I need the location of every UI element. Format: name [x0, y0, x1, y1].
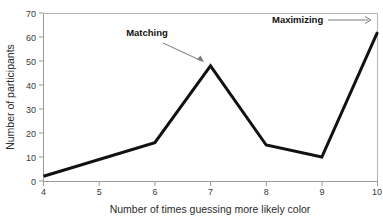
annotation-maximizing: Maximizing [272, 14, 371, 25]
y-axis-title: Number of participants [4, 44, 16, 150]
line-chart: 0 10 20 30 40 50 60 70 4 5 6 7 8 9 [0, 0, 383, 218]
x-tick-label: 10 [372, 187, 382, 197]
arrow-head-icon [197, 56, 204, 63]
x-tick-label: 5 [97, 187, 102, 197]
plot-frame [44, 13, 379, 182]
y-tick-label: 0 [31, 177, 36, 187]
y-tick-label: 70 [26, 9, 36, 19]
x-tick-label: 7 [208, 187, 213, 197]
y-axis-ticks [39, 13, 44, 181]
x-tick-label: 9 [319, 187, 324, 197]
y-tick-label: 50 [26, 57, 36, 67]
y-tick-label: 40 [26, 81, 36, 91]
x-tick-label: 6 [152, 187, 157, 197]
annotation-maximizing-label: Maximizing [272, 14, 323, 25]
x-tick-label: 4 [41, 187, 46, 197]
x-tick-label: 8 [264, 187, 269, 197]
y-tick-label: 30 [26, 105, 36, 115]
x-axis-tick-labels: 4 5 6 7 8 9 10 [41, 187, 382, 197]
y-tick-label: 20 [26, 129, 36, 139]
annotation-matching: Matching [126, 27, 204, 62]
data-series-line [44, 32, 378, 176]
annotation-matching-label: Matching [126, 27, 168, 38]
y-tick-label: 60 [26, 33, 36, 43]
chart-screenshot: 0 10 20 30 40 50 60 70 4 5 6 7 8 9 [0, 0, 383, 218]
x-axis-title: Number of times guessing more likely col… [110, 203, 311, 215]
y-tick-label: 10 [26, 153, 36, 163]
annotation-matching-leader-line [163, 43, 202, 61]
y-axis-tick-labels: 0 10 20 30 40 50 60 70 [26, 9, 36, 187]
